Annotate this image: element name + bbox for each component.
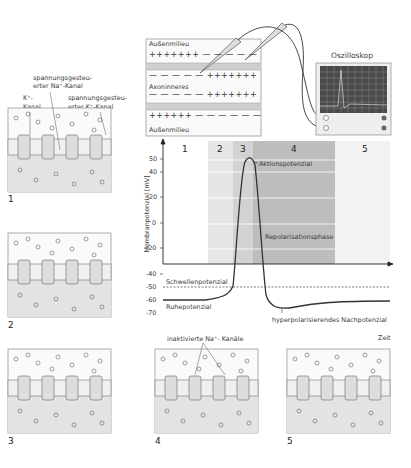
panel-1-number: 1 (8, 194, 14, 204)
membrane-panels (0, 0, 411, 468)
ytick-m60: -60 (146, 296, 156, 304)
ytick-m50: -50 (146, 283, 156, 291)
phase-4: 4 (291, 144, 297, 154)
ytick-m70: -70 (146, 309, 156, 317)
phase-3: 3 (240, 144, 246, 154)
ytick-0: 0 (152, 219, 156, 227)
phase-2: 2 (217, 144, 223, 154)
repolarization-annotation: Repolarisationsphase (265, 233, 333, 241)
panel-3-number: 3 (8, 436, 14, 446)
threshold-annotation: Schwellenpotenzial (166, 278, 228, 286)
panel-2-number: 2 (8, 320, 14, 330)
phase-1: 1 (182, 144, 188, 154)
peak-annotation: Aktionspotenzial (259, 160, 312, 168)
inactivated-na-label: inaktivierte Na⁺- Kanäle (167, 335, 243, 343)
ytick-50: 50 (149, 155, 157, 163)
afterpotential-annotation: hyperpolarisierendes Nachpotenzial (272, 316, 387, 324)
phase-5: 5 (362, 144, 368, 154)
x-axis-label: Zeit (378, 334, 391, 342)
panel-5-number: 5 (287, 436, 293, 446)
ytick-m40: -40 (146, 270, 156, 278)
panel-4-number: 4 (155, 436, 161, 446)
resting-annotation: Ruhepotenzial (166, 303, 211, 311)
y-axis-label: Membranpotenzial [mV] (143, 175, 151, 252)
